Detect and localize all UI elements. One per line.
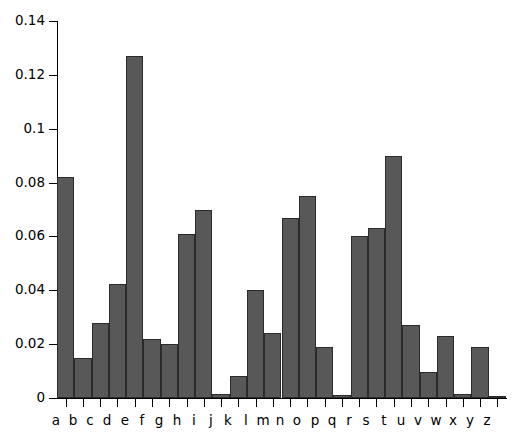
x-axis-tick xyxy=(152,399,153,407)
x-axis-tick xyxy=(221,399,222,407)
bar xyxy=(420,372,437,398)
bar xyxy=(402,325,419,398)
x-axis-tick xyxy=(463,399,464,407)
bar xyxy=(385,156,402,398)
bar xyxy=(247,290,264,398)
x-axis-tick xyxy=(480,399,481,407)
y-axis-tick-label: 0.14 xyxy=(0,14,45,28)
y-axis-tick xyxy=(49,398,57,399)
x-axis-tick xyxy=(376,399,377,407)
bar xyxy=(143,339,160,398)
bar xyxy=(74,358,91,398)
bar xyxy=(264,333,281,398)
y-axis-tick-label: 0.04 xyxy=(0,284,45,298)
bar xyxy=(92,323,109,398)
y-axis-tick-label: 0.06 xyxy=(0,230,45,244)
y-axis-tick xyxy=(49,236,57,237)
bar xyxy=(351,236,368,398)
x-axis-tick xyxy=(256,399,257,407)
y-axis-tick-label: 0.1 xyxy=(0,122,45,136)
x-axis-tick xyxy=(100,399,101,407)
x-axis-tick xyxy=(428,399,429,407)
bar xyxy=(299,196,316,398)
bar xyxy=(316,347,333,398)
y-axis-tick-label: 0 xyxy=(0,391,45,405)
x-axis-tick xyxy=(359,399,360,407)
bar xyxy=(126,56,143,398)
x-axis-tick xyxy=(204,399,205,407)
x-axis-tick xyxy=(135,399,136,407)
bar xyxy=(161,344,178,398)
bar xyxy=(454,394,471,398)
x-axis-tick xyxy=(497,399,498,407)
x-axis-tick xyxy=(117,399,118,407)
x-axis-tick-label: s xyxy=(356,414,376,428)
x-axis-tick xyxy=(66,399,67,407)
bar xyxy=(471,347,488,398)
x-axis-tick-label: d xyxy=(97,414,117,428)
x-axis-tick-label: o xyxy=(287,414,307,428)
x-axis-tick xyxy=(307,399,308,407)
x-axis-tick xyxy=(342,399,343,407)
bar xyxy=(437,336,454,398)
bar xyxy=(368,228,385,398)
y-axis-tick-label: 0.02 xyxy=(0,337,45,351)
y-axis-tick xyxy=(49,129,57,130)
x-axis-tick xyxy=(238,399,239,407)
bar xyxy=(57,177,74,398)
bar xyxy=(230,376,247,398)
y-axis-tick-label: 0.12 xyxy=(0,68,45,82)
bar xyxy=(212,394,229,398)
x-axis-tick xyxy=(325,399,326,407)
x-axis-tick-label: k xyxy=(218,414,238,428)
x-axis-tick xyxy=(169,399,170,407)
y-axis-tick-label: 0.08 xyxy=(0,176,45,190)
x-axis-tick xyxy=(394,399,395,407)
bar xyxy=(333,395,350,398)
x-axis-tick-label: g xyxy=(149,414,169,428)
bar xyxy=(489,396,506,398)
x-axis-tick-label: z xyxy=(477,414,497,428)
y-axis-tick xyxy=(49,344,57,345)
bar xyxy=(178,234,195,398)
bar xyxy=(282,218,299,398)
bar xyxy=(195,210,212,399)
x-axis-tick-label: v xyxy=(408,414,428,428)
x-axis-tick xyxy=(187,399,188,407)
bar xyxy=(109,284,126,398)
x-axis-tick xyxy=(290,399,291,407)
x-axis-tick xyxy=(273,399,274,407)
x-axis-tick xyxy=(446,399,447,407)
x-axis-tick xyxy=(411,399,412,407)
y-axis-tick xyxy=(49,290,57,291)
y-axis-tick xyxy=(49,183,57,184)
y-axis-tick xyxy=(49,21,57,22)
letter-frequency-bar-chart: 00.020.040.060.080.10.120.14 abcdefghijk… xyxy=(0,0,513,442)
y-axis-tick xyxy=(49,75,57,76)
bar-series xyxy=(57,21,507,398)
x-axis-tick xyxy=(83,399,84,407)
x-axis-line xyxy=(57,398,507,399)
